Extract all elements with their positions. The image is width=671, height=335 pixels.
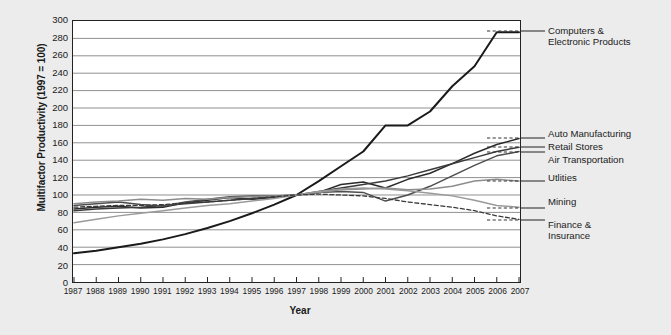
series-end-label: Mining (548, 196, 576, 207)
chart-figure: Multifactor Productivity (1997 = 100) 30… (0, 0, 671, 335)
leader-line (487, 202, 549, 214)
series-end-label: Utlities (548, 172, 577, 183)
series-end-labels: Computers & Electronic ProductsAuto Manu… (0, 0, 671, 335)
series-end-label: Finance & Insurance (548, 219, 591, 241)
leader-line (487, 214, 549, 226)
leader-line (487, 146, 549, 158)
series-end-label: Auto Manufacturing (548, 128, 631, 139)
series-end-label: Computers & Electronic Products (548, 25, 631, 47)
leader-line (487, 175, 549, 187)
series-end-label: Air Transportation (548, 154, 624, 165)
leader-line (487, 25, 549, 37)
series-end-label: Retail Stores (548, 141, 603, 152)
